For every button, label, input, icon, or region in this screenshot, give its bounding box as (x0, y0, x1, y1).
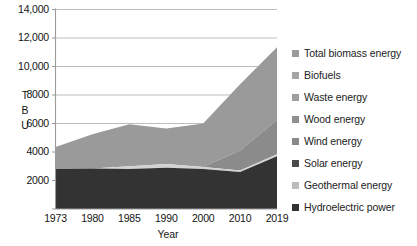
legend-swatch-icon (292, 50, 299, 57)
legend-item[interactable]: Solar energy (292, 152, 417, 174)
legend-item[interactable]: Biofuels (292, 64, 417, 86)
legend-item[interactable]: Waste energy (292, 86, 417, 108)
legend-item[interactable]: Hydroelectric power (292, 196, 417, 218)
x-axis-title: Year (108, 228, 228, 240)
legend-label: Total biomass energy (304, 48, 401, 59)
legend-label: Wind energy (304, 136, 362, 147)
legend-swatch-icon (292, 94, 299, 101)
legend-swatch-icon (292, 182, 299, 189)
legend-item[interactable]: Wood energy (292, 108, 417, 130)
legend-swatch-icon (292, 116, 299, 123)
chart-legend: Total biomass energyBiofuelsWaste energy… (292, 42, 417, 218)
legend-item[interactable]: Wind energy (292, 130, 417, 152)
legend-swatch-icon (292, 72, 299, 79)
legend-label: Solar energy (304, 158, 362, 169)
legend-item[interactable]: Total biomass energy (292, 42, 417, 64)
legend-label: Wood energy (304, 114, 365, 125)
legend-swatch-icon (292, 204, 299, 211)
stacked-area-chart: 14,00012,00010,0008000600040002000 T B U… (0, 0, 417, 246)
legend-label: Waste energy (304, 92, 367, 103)
legend-label: Hydroelectric power (304, 202, 395, 213)
legend-swatch-icon (292, 160, 299, 167)
legend-label: Geothermal energy (304, 180, 392, 191)
legend-item[interactable]: Geothermal energy (292, 174, 417, 196)
legend-label: Biofuels (304, 70, 341, 81)
legend-swatch-icon (292, 138, 299, 145)
